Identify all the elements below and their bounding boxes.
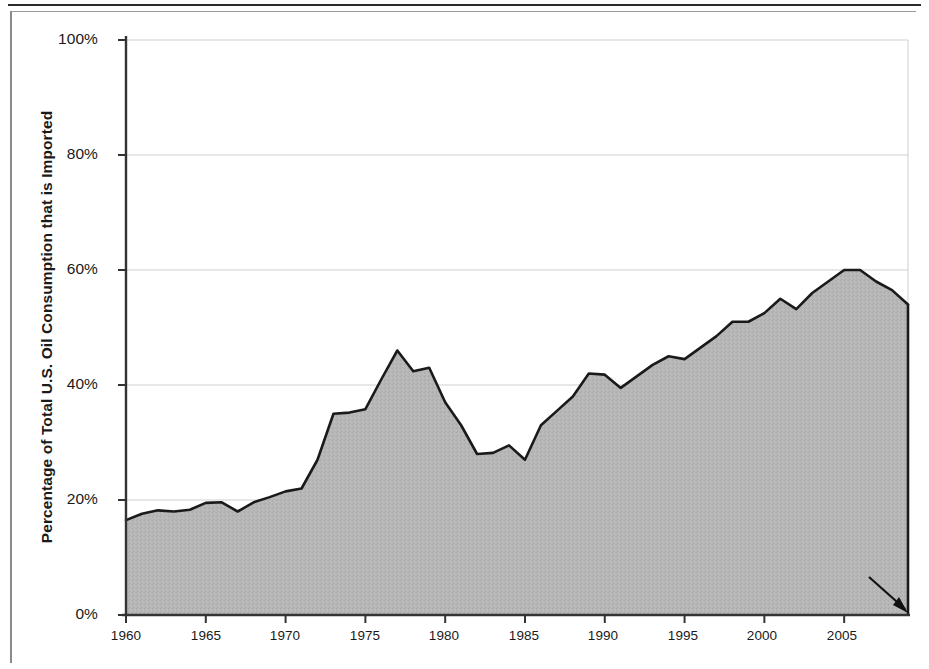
plot-canvas <box>0 0 929 669</box>
figure-container: Percentage of Total U.S. Oil Consumption… <box>0 0 929 669</box>
data-area-series <box>126 270 908 615</box>
